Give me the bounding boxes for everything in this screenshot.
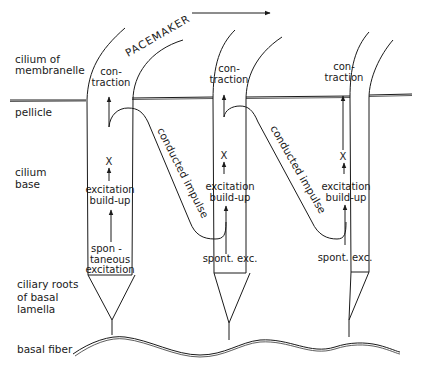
pellicle-line: [10, 94, 412, 102]
label-pellicle: pellicle: [15, 106, 52, 118]
cilium-1-buildup-line1: excitation: [85, 184, 134, 195]
cilium-3-x-marker: X: [340, 151, 347, 162]
conducted-impulse-label-2: conducted impulse: [268, 123, 328, 215]
label-cilium-base-1: cilium: [15, 166, 46, 178]
cilium-2-contraction-line2: traction: [210, 74, 249, 85]
cilium-2-excitation: spont. exc.: [203, 253, 258, 264]
cilium-1-contraction-line2: traction: [92, 77, 131, 88]
cilium-2-buildup-line1: excitation: [205, 181, 254, 192]
cilium-1-contraction-line1: con-: [100, 66, 122, 77]
cilium-1-excitation-line3: excitation: [85, 264, 134, 275]
cilium-3-buildup-line1: excitation: [321, 181, 370, 192]
cilium-2-x-marker: X: [221, 150, 228, 161]
cilium-3-buildup-line2: build-up: [326, 192, 367, 203]
conducted-impulse-path-2: [224, 106, 346, 239]
label-ciliary-roots-1: ciliary roots: [17, 278, 78, 290]
cilium-2-contraction-line1: con-: [218, 63, 240, 74]
label-ciliary-roots-3: lamella: [17, 303, 55, 315]
cilium-1-buildup-line2: build-up: [90, 195, 131, 206]
label-cilium-of-membranelle-2: membranelle: [15, 64, 85, 76]
cilium-2-buildup-line2: build-up: [210, 192, 251, 203]
cilium-3-arrows: [343, 96, 345, 245]
label-ciliary-roots-2: of basal: [17, 291, 58, 303]
cilium-3-contraction-line2: traction: [325, 72, 364, 83]
cilium-1-x-marker: X: [106, 156, 113, 167]
pacemaker-label: PACEMAKER: [123, 12, 192, 59]
ciliary-pacemaker-diagram: PACEMAKER: [0, 0, 422, 366]
cilium-3-contraction-line1: con-: [333, 61, 355, 72]
cilium-1-excitation-line1: spon -: [91, 243, 122, 254]
cilium-3-excitation: spont. exc.: [318, 252, 373, 263]
label-cilium-base-2: base: [15, 178, 40, 190]
label-basal-fiber: basal fiber: [17, 343, 73, 355]
basal-fiber-line: [73, 337, 400, 357]
